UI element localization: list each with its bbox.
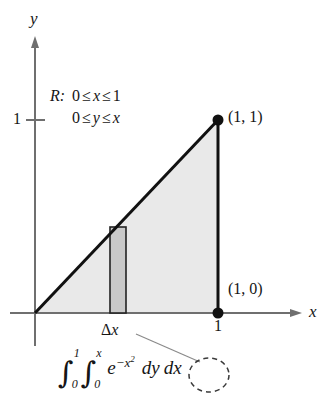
- region-cond-x-var: x: [93, 87, 100, 104]
- inner-differential: dy: [142, 357, 160, 378]
- x-axis-tick-label-1: 1: [214, 318, 222, 334]
- region-cond-y-var: y: [93, 109, 100, 126]
- delta-x-variable: x: [111, 321, 118, 338]
- integrand-exponent-power: 2: [130, 354, 135, 364]
- delta-x-strip: [110, 227, 126, 313]
- integrand-exponent: −x2: [116, 355, 135, 370]
- x-axis-arrowhead: [290, 309, 302, 317]
- region-description-line-x: R:0≤x≤1: [50, 88, 121, 110]
- delta-x-label: Δx: [101, 322, 118, 338]
- point-label-1-1: (1, 1): [228, 109, 263, 125]
- region-cond-y-left: 0: [72, 109, 80, 126]
- region-description-line-y: 0≤y≤x: [50, 110, 121, 132]
- region-name: R:: [50, 87, 65, 104]
- integration-region-figure: y x 1 1 R:0≤x≤1 0≤y≤x (1, 1) (1, 0) Δx ∫…: [0, 0, 329, 408]
- region-cond-x-rel1: ≤: [80, 87, 93, 104]
- y-axis-label: y: [30, 10, 38, 27]
- region-description: R:0≤x≤1 0≤y≤x: [50, 88, 121, 132]
- delta-symbol: Δ: [101, 321, 111, 338]
- point-marker-1-1: [213, 115, 224, 126]
- integral-expression: ∫10∫x0e−x2dydx: [58, 355, 186, 399]
- region-cond-y-rel2: ≤: [100, 109, 113, 126]
- region-cond-y-rel1: ≤: [80, 109, 93, 126]
- y-axis-tick-label-1: 1: [13, 111, 21, 127]
- figure-canvas: [0, 0, 329, 408]
- dx-highlight-ellipse: [189, 358, 229, 392]
- region-cond-y-right: x: [113, 109, 120, 126]
- inner-integral-lower-limit: 0: [94, 378, 100, 390]
- point-label-1-0: (1, 0): [228, 281, 263, 297]
- inner-integral-upper-limit: x: [96, 347, 101, 359]
- x-axis-label: x: [309, 303, 317, 320]
- region-cond-x-right: 1: [113, 87, 121, 104]
- outer-integral-lower-limit: 0: [72, 378, 78, 390]
- outer-differential: dx: [160, 358, 186, 377]
- region-cond-x-rel2: ≤: [100, 87, 113, 104]
- outer-integral-upper-limit: 1: [74, 347, 80, 359]
- integrand-base: e: [107, 357, 115, 378]
- region-cond-x-left: 0: [72, 87, 80, 104]
- y-axis-arrowhead: [31, 36, 39, 48]
- integrand-exponent-text: −x: [116, 355, 131, 370]
